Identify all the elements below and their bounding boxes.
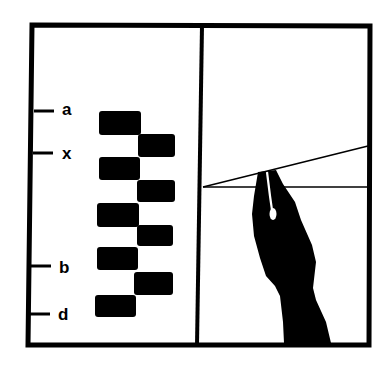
block [97,247,138,270]
block [95,295,136,317]
label-b: b [59,258,69,277]
slanted-line [203,146,368,187]
nib-vent-hole [270,208,277,220]
diagram-figure: a x b d [0,0,384,368]
block [137,225,173,246]
block [134,272,173,295]
label-a: a [62,100,72,119]
block [99,111,141,135]
panel-divider [197,26,202,345]
block [138,134,175,157]
block-stack [95,111,175,317]
block [99,157,140,180]
block [137,180,175,202]
tick-marks [30,111,54,314]
block [97,203,139,227]
tick-labels: a x b d [58,100,72,324]
label-x: x [62,144,72,163]
label-d: d [58,305,68,324]
pen-icon [252,170,331,343]
